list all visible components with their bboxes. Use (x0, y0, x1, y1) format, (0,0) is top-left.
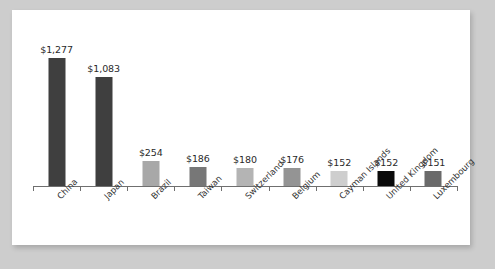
bar-value-label: $152 (316, 157, 363, 168)
x-axis-tick (221, 186, 222, 191)
category-label-slot: China (33, 192, 80, 244)
bar-group[interactable]: $152 (316, 18, 363, 186)
bar-value-label: $180 (221, 154, 268, 165)
category-label-slot: United Kingdom (363, 192, 410, 244)
bar-group[interactable]: $1,083 (80, 18, 127, 186)
bar-value-label: $1,277 (33, 44, 80, 55)
bar-group[interactable]: $254 (127, 18, 174, 186)
x-axis-tick (127, 186, 128, 191)
x-axis-category-labels: China Japan Brazil Taiwan Switzerland Be… (33, 192, 457, 244)
category-label-slot: Taiwan (174, 192, 221, 244)
bar-rect[interactable] (331, 171, 348, 186)
category-label-slot: Brazil (127, 192, 174, 244)
x-axis-tick (410, 186, 411, 191)
bar-group[interactable]: $180 (221, 18, 268, 186)
chart-card: $1,277 $1,083 $254 $186 $180 $176 $152 (12, 10, 470, 245)
bar-value-label: $1,083 (80, 63, 127, 74)
bar-group[interactable]: $186 (174, 18, 221, 186)
bar-value-label: $254 (127, 147, 174, 158)
category-label-slot: Luxembourg (410, 192, 457, 244)
bar-rect[interactable] (95, 77, 112, 186)
category-label-slot: Japan (80, 192, 127, 244)
x-axis-tick (363, 186, 364, 191)
category-label-slot: Belgium (269, 192, 316, 244)
bar-rect[interactable] (142, 161, 159, 186)
x-axis-tick (316, 186, 317, 191)
x-axis-tick (33, 186, 34, 191)
bar-group[interactable]: $1,277 (33, 18, 80, 186)
category-label-slot: Switzerland (221, 192, 268, 244)
x-axis-tick (269, 186, 270, 191)
x-axis-tick (457, 186, 458, 191)
bar-value-label: $186 (174, 153, 221, 164)
bar-rect[interactable] (48, 58, 65, 186)
bar-chart-plot-area: $1,277 $1,083 $254 $186 $180 $176 $152 (33, 18, 457, 186)
x-axis-tick (174, 186, 175, 191)
bar-rect[interactable] (378, 171, 395, 186)
x-axis-tick (80, 186, 81, 191)
bar-rect[interactable] (189, 167, 206, 186)
bar-rect[interactable] (284, 168, 301, 186)
bar-rect[interactable] (236, 168, 253, 186)
category-label-slot: Cayman Islands (316, 192, 363, 244)
